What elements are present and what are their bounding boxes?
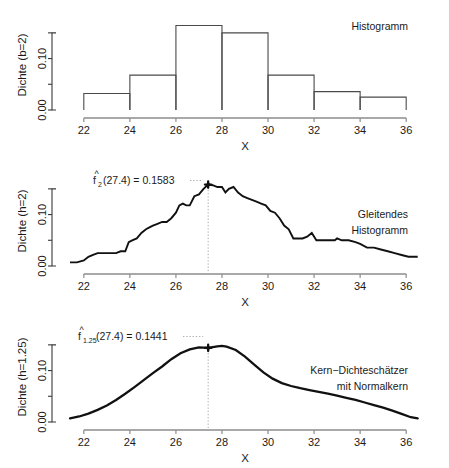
x-tick-label: 24	[124, 124, 136, 136]
x-tick-label: 32	[308, 436, 320, 448]
panel-histogramm: 0.000.10Dichte (b=2)2224262830323436XHis…	[0, 0, 449, 156]
x-tick-label: 30	[262, 124, 274, 136]
x-tick-label: 28	[216, 436, 228, 448]
y-axis-title: Dichte (h=2)	[16, 189, 28, 252]
x-tick-label: 24	[124, 436, 136, 448]
annotation-subscript: 2	[98, 181, 102, 188]
annotation-subscript: 1.25	[83, 337, 97, 344]
x-tick-label: 26	[170, 280, 182, 292]
histogram-bar	[84, 93, 130, 110]
y-tick-label: 0.00	[36, 411, 48, 432]
x-tick-label: 36	[400, 280, 412, 292]
histogram-bar	[268, 75, 314, 110]
y-axis-title: Dichte (h=1.25)	[16, 337, 28, 416]
y-axis-title: Dichte (b=2)	[16, 33, 28, 96]
panel-title-line1: Kern−Dichteschätzer	[310, 364, 408, 376]
y-axis-line	[52, 345, 56, 422]
x-tick-label: 30	[262, 280, 274, 292]
panel-title: Histogramm	[351, 20, 408, 32]
panel-title-line2: mit Normalkern	[337, 380, 408, 392]
panel-title-line1: Gleitendes	[358, 208, 408, 220]
y-tick-label: 0.10	[36, 204, 48, 225]
y-tick-label: 0.00	[36, 99, 48, 120]
x-tick-label: 34	[354, 124, 366, 136]
panel-kern-dichteschaetzer: 0.000.10Dichte (h=1.25)2224262830323436X…	[0, 312, 449, 468]
annotation-label: f^1.25(27.4) = 0.1441	[78, 325, 168, 345]
x-tick-label: 22	[78, 436, 90, 448]
x-axis-title: X	[241, 140, 249, 152]
annotation-hat: ^	[95, 169, 100, 179]
peak-point	[206, 346, 210, 350]
x-tick-label: 32	[308, 280, 320, 292]
peak-point	[206, 183, 210, 187]
x-tick-label: 26	[170, 124, 182, 136]
x-tick-label: 22	[78, 280, 90, 292]
x-tick-label: 32	[308, 124, 320, 136]
annotation-label: f^2(27.4) = 0.1583	[93, 169, 175, 189]
panel-title-line2: Histogramm	[351, 224, 408, 236]
x-axis-title: X	[241, 452, 249, 464]
x-tick-label: 26	[170, 436, 182, 448]
figure-density-estimators: 0.000.10Dichte (b=2)2224262830323436XHis…	[0, 0, 449, 468]
x-axis-title: X	[241, 296, 249, 308]
panel-gleitendes-histogramm: 0.000.10Dichte (h=2)2224262830323436Xf^2…	[0, 156, 449, 312]
y-tick-label: 0.00	[36, 255, 48, 276]
x-tick-label: 34	[354, 280, 366, 292]
plot-histogramm: 0.000.10Dichte (b=2)2224262830323436XHis…	[0, 0, 449, 156]
histogram-bar	[176, 26, 222, 110]
x-tick-label: 36	[400, 436, 412, 448]
x-tick-label: 24	[124, 280, 136, 292]
histogram-bar	[314, 92, 360, 110]
y-axis-line	[52, 33, 56, 110]
x-tick-label: 34	[354, 436, 366, 448]
histogram-bar	[130, 75, 176, 110]
annotation-hat: ^	[80, 325, 85, 335]
y-axis-line	[52, 189, 56, 266]
y-tick-label: 0.10	[36, 360, 48, 381]
annotation-text: (27.4) = 0.1583	[103, 174, 175, 186]
x-tick-label: 30	[262, 436, 274, 448]
x-tick-label: 28	[216, 280, 228, 292]
histogram-bar	[222, 33, 268, 110]
histogram-bar	[360, 97, 406, 110]
x-tick-label: 28	[216, 124, 228, 136]
plot-gleitendes-histogramm: 0.000.10Dichte (h=2)2224262830323436Xf^2…	[0, 156, 449, 312]
y-tick-label: 0.10	[36, 48, 48, 69]
annotation-text: (27.4) = 0.1441	[96, 330, 168, 342]
x-tick-label: 22	[78, 124, 90, 136]
x-tick-label: 36	[400, 124, 412, 136]
plot-kern-dichteschaetzer: 0.000.10Dichte (h=1.25)2224262830323436X…	[0, 312, 449, 468]
